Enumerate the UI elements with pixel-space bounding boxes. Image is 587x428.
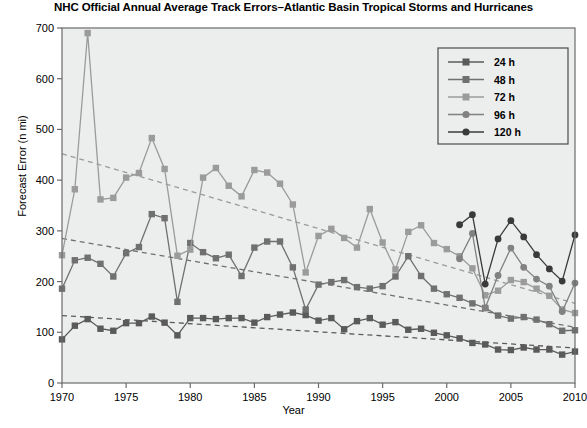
y-tick-label: 0	[48, 377, 54, 389]
legend-label: 24 h	[494, 56, 515, 68]
x-tick-label: 2000	[435, 391, 459, 403]
x-tick-label: 1975	[114, 391, 138, 403]
legend-label: 48 h	[494, 74, 515, 86]
y-tick-label: 400	[36, 174, 54, 186]
x-tick-label: 2005	[499, 391, 523, 403]
x-tick-label: 1985	[242, 391, 266, 403]
y-tick-label: 100	[36, 326, 54, 338]
x-tick-label: 1990	[306, 391, 330, 403]
x-tick-label: 2010	[563, 391, 587, 403]
plot-area: 0100200300400500600700197019751980198519…	[0, 0, 587, 428]
chart-figure: NHC Official Annual Average Track Errors…	[0, 0, 587, 428]
legend-label: 72 h	[494, 91, 515, 103]
y-tick-label: 700	[36, 22, 54, 34]
chart-legend: 24 h48 h72 h96 h120 h	[438, 48, 568, 144]
x-tick-label: 1970	[50, 391, 74, 403]
x-tick-label: 1980	[178, 391, 202, 403]
y-tick-label: 500	[36, 123, 54, 135]
legend-label: 96 h	[494, 109, 515, 121]
legend-label: 120 h	[494, 126, 521, 138]
x-tick-label: 1995	[370, 391, 394, 403]
y-tick-label: 200	[36, 276, 54, 288]
y-tick-label: 300	[36, 225, 54, 237]
y-tick-label: 600	[36, 73, 54, 85]
